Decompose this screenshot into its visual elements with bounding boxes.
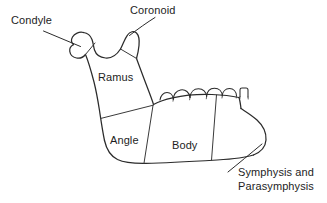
label-coronoid: Coronoid	[130, 4, 175, 17]
label-symphysis-line1: Symphysis and	[238, 166, 314, 178]
divider-angle-body	[144, 106, 153, 164]
posterior-ramus-border	[86, 55, 105, 141]
divider-ramus-angle	[101, 105, 154, 118]
label-symphysis-line2: Parasymphysis	[238, 180, 314, 192]
label-condyle: Condyle	[11, 14, 52, 27]
label-ramus: Ramus	[98, 71, 133, 84]
anterior-ramus-border	[137, 59, 154, 105]
mandible-diagram: Condyle Coronoid Ramus Angle Body Symphy…	[0, 0, 327, 203]
tooth-crown	[190, 89, 207, 98]
symphysis-contour	[241, 109, 266, 156]
divider-body-symphysis	[212, 95, 217, 160]
tooth-crown	[173, 90, 190, 99]
leader-line-coronoid	[130, 18, 156, 36]
label-symphysis-parasymphysis: Symphysis and Parasymphysis	[229, 165, 323, 193]
anterior-alveolar-link	[239, 98, 241, 109]
alveolar-border	[154, 94, 240, 104]
tooth-crown-anterior	[240, 88, 248, 97]
label-angle: Angle	[110, 134, 139, 147]
label-body: Body	[172, 139, 197, 152]
condylar-neck-outline	[84, 33, 121, 59]
divider-coronoid-ramus	[121, 49, 137, 59]
leader-line-condyle	[44, 31, 81, 47]
